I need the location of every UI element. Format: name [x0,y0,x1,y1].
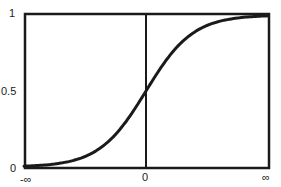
y-tick-0.5: 0.5 [1,86,16,97]
x-tick-neg-infinity: -∞ [20,174,32,185]
sigmoid-chart [0,0,281,187]
x-tick-zero: 0 [142,172,148,183]
x-tick-infinity: ∞ [262,172,270,183]
y-tick-1: 1 [9,8,15,19]
y-tick-0: 0 [10,163,16,174]
